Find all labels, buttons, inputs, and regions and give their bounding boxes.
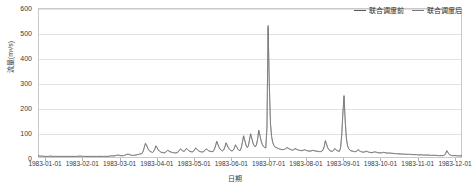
x-tick-1983-08-01: 1983-08-01	[289, 160, 322, 168]
x-axis-title: 日期	[0, 173, 470, 183]
y-tick-300: 300	[20, 80, 32, 87]
x-tick-mark-0	[45, 158, 46, 161]
x-tick-mark-6	[269, 158, 270, 161]
x-tick-mark-2	[120, 158, 121, 161]
legend-line-icon-before	[354, 10, 366, 11]
x-tick-1983-11-01: 1983-11-01	[401, 160, 434, 168]
x-tick-mark-8	[343, 158, 344, 161]
x-tick-1983-01-01: 1983-01-01	[28, 160, 61, 168]
x-tick-mark-10	[418, 158, 419, 161]
x-tick-1983-07-01: 1983-07-01	[252, 160, 285, 168]
x-tick-1983-06-01: 1983-06-01	[215, 160, 248, 168]
legend-item-before[interactable]: 联合调度前	[354, 5, 404, 15]
legend-label-after: 联合调度后	[427, 5, 462, 15]
x-tick-mark-5	[231, 158, 232, 161]
y-tick-100: 100	[20, 130, 32, 137]
chart-legend: 联合调度前 联合调度后	[354, 5, 462, 15]
y-tick-500: 500	[20, 30, 32, 37]
x-axis-tick-labels: 1983-01-011983-02-011983-03-011983-04-01…	[0, 160, 470, 174]
x-tick-mark-4	[194, 158, 195, 161]
series-layer	[38, 8, 462, 158]
x-tick-1983-05-01: 1983-05-01	[177, 160, 210, 168]
x-tick-mark-1	[82, 158, 83, 161]
series-path-group	[38, 26, 462, 157]
legend-item-after[interactable]: 联合调度后	[412, 5, 462, 15]
x-tick-1983-09-01: 1983-09-01	[327, 160, 360, 168]
x-tick-mark-7	[306, 158, 307, 161]
x-tick-mark-9	[380, 158, 381, 161]
y-tick-600: 600	[20, 5, 32, 12]
y-axis-title: 流量(m³/s)	[5, 27, 15, 87]
x-tick-1983-10-01: 1983-10-01	[364, 160, 397, 168]
x-tick-mark-3	[157, 158, 158, 161]
x-tick-1983-12-01: 1983-12-01	[438, 160, 471, 168]
x-tick-1983-04-01: 1983-04-01	[140, 160, 173, 168]
x-tick-1983-02-01: 1983-02-01	[66, 160, 99, 168]
x-tick-1983-03-01: 1983-03-01	[103, 160, 136, 168]
legend-label-before: 联合调度前	[369, 5, 404, 15]
y-tick-400: 400	[20, 55, 32, 62]
x-tick-mark-11	[455, 158, 456, 161]
series-line-after	[38, 28, 462, 156]
legend-line-icon-after	[412, 10, 424, 11]
y-tick-200: 200	[20, 105, 32, 112]
